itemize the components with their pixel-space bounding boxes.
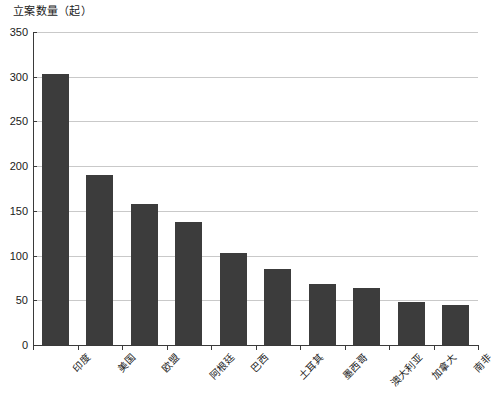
x-axis-tick-mark (33, 345, 34, 350)
plot-area (33, 32, 478, 345)
bar[interactable] (309, 284, 336, 345)
x-axis-tick-label: 阿根廷 (208, 352, 238, 382)
bar[interactable] (220, 253, 247, 345)
y-axis-tick-label: 150 (2, 206, 28, 217)
x-axis-tick-label: 美国 (116, 352, 139, 375)
y-axis-tick-label: 250 (2, 116, 28, 127)
y-axis-tick-mark (33, 300, 37, 301)
y-axis-tick-label: 0 (2, 340, 28, 351)
x-axis-tick-label: 澳大利亚 (388, 352, 425, 389)
x-axis-tick-mark (122, 345, 123, 350)
bar[interactable] (175, 222, 202, 345)
x-axis-tick-mark (167, 345, 168, 350)
x-axis-tick-mark (300, 345, 301, 350)
x-axis-tick-mark (345, 345, 346, 350)
bar[interactable] (353, 288, 380, 345)
bar[interactable] (42, 74, 69, 345)
bar[interactable] (131, 204, 158, 345)
y-axis-tick-label: 300 (2, 72, 28, 83)
y-axis-tick-labels: 050100150200250300350 (0, 32, 28, 345)
y-axis-tick-mark (33, 77, 37, 78)
x-axis-tick-label: 土耳其 (297, 352, 327, 382)
x-axis-tick-mark (78, 345, 79, 350)
x-axis-tick-mark (256, 345, 257, 350)
chart-axis-title: 立案数量（起） (13, 4, 92, 18)
y-axis-tick-mark (33, 121, 37, 122)
x-axis-tick-label: 印度 (71, 352, 94, 375)
x-axis-tick-mark (434, 345, 435, 350)
gridline (33, 121, 478, 122)
x-axis-tick-label: 欧盟 (160, 352, 183, 375)
x-axis-tick-label: 墨西哥 (341, 352, 371, 382)
gridline (33, 77, 478, 78)
y-axis-tick-mark (33, 166, 37, 167)
x-axis-tick-label: 南非 (472, 352, 494, 375)
y-axis-tick-mark (33, 32, 37, 33)
gridline (33, 166, 478, 167)
y-axis-tick-label: 200 (2, 161, 28, 172)
x-axis-tick-mark (478, 345, 479, 350)
y-axis-tick-mark (33, 211, 37, 212)
x-axis-tick-label: 巴西 (249, 352, 272, 375)
y-axis-tick-label: 100 (2, 251, 28, 262)
x-axis-tick-mark (211, 345, 212, 350)
bar[interactable] (86, 175, 113, 345)
bar[interactable] (442, 305, 469, 345)
y-axis-tick-mark (33, 256, 37, 257)
bar[interactable] (398, 302, 425, 345)
gridline (33, 32, 478, 33)
y-axis-tick-label: 50 (2, 295, 28, 306)
x-axis-tick-mark (389, 345, 390, 350)
bar[interactable] (264, 269, 291, 345)
x-axis-tick-label: 加拿大 (430, 352, 460, 382)
y-axis-tick-label: 350 (2, 27, 28, 38)
